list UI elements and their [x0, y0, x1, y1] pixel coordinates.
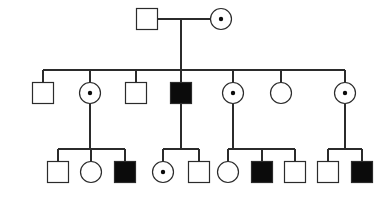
- individual-iii-8-male-unaffected: [285, 162, 306, 183]
- individual-ii-6-female-unaffected: [271, 83, 292, 104]
- individual-iii-7-male-affected: [252, 162, 273, 183]
- individual-iii-1-male-unaffected: [48, 162, 69, 183]
- individual-symbols: [33, 9, 373, 183]
- carrier-dot-ii-7: [343, 91, 347, 95]
- carrier-dot-iii-4: [161, 170, 165, 174]
- individual-ii-1-male-unaffected: [33, 83, 54, 104]
- carrier-dot-ii-2: [88, 91, 92, 95]
- pedigree-canvas: [0, 0, 391, 200]
- individual-iii-2-female-unaffected: [81, 162, 102, 183]
- individual-iii-3-male-affected: [115, 162, 136, 183]
- individual-ii-3-male-unaffected: [126, 83, 147, 104]
- carrier-dot-i-2: [219, 17, 223, 21]
- individual-iii-9-male-unaffected: [318, 162, 339, 183]
- pedigree-chart: Pedigree chart: [0, 0, 391, 200]
- individual-iii-5-male-unaffected: [189, 162, 210, 183]
- individual-ii-4-male-affected: [171, 83, 192, 104]
- individual-i-1-male-unaffected: [137, 9, 158, 30]
- individual-iii-6-female-unaffected: [218, 162, 239, 183]
- carrier-dot-ii-5: [231, 91, 235, 95]
- individual-iii-10-male-affected: [352, 162, 373, 183]
